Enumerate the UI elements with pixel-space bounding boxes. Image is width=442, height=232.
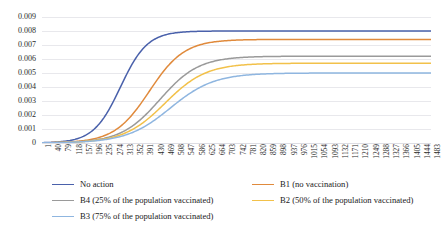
y-axis-tick-label: 0.001 <box>18 125 36 133</box>
y-axis-tick-label: 0.005 <box>18 69 36 77</box>
series-line <box>42 31 431 143</box>
x-axis-tick-label: 1483 <box>434 144 441 159</box>
x-axis-tick-label: 1327 <box>393 144 400 159</box>
x-axis-tick-label: 1132 <box>342 144 349 159</box>
y-axis: 0.0090.0080.0070.0060.0050.0040.0030.002… <box>0 17 40 143</box>
plot-area <box>42 17 431 143</box>
x-axis-tick-label: 469 <box>168 144 175 155</box>
x-axis-tick-label: 664 <box>219 144 226 155</box>
legend-item[interactable]: B4 (25% of the population vaccinated) <box>52 196 213 205</box>
x-axis-tick-label: 1210 <box>362 144 369 159</box>
x-axis-tick-label: 1366 <box>403 144 410 159</box>
x-axis-tick-label: 1288 <box>383 144 390 159</box>
x-axis-tick-label: 976 <box>301 144 308 155</box>
y-axis-tick-label: 0.004 <box>18 83 36 91</box>
x-axis-tick-label: 430 <box>158 144 165 155</box>
legend-label: B3 (75% of the population vaccinated) <box>80 212 213 221</box>
x-axis-tick-label: 586 <box>199 144 206 155</box>
y-axis-tick-label: 0 <box>32 139 36 147</box>
x-axis-tick-label: 703 <box>229 144 236 155</box>
legend-item[interactable]: No action <box>52 180 114 189</box>
series-line <box>42 73 431 143</box>
x-axis: 1407911815719623527431335239143046950854… <box>42 144 431 178</box>
x-axis-tick-label: 1054 <box>321 144 328 159</box>
x-axis-tick-label: 313 <box>127 144 134 155</box>
legend-color-swatch <box>52 216 74 217</box>
series-lines <box>42 17 431 143</box>
y-axis-tick-label: 0.007 <box>18 41 36 49</box>
series-line <box>42 39 431 142</box>
legend-label: No action <box>80 180 114 189</box>
series-line <box>42 63 431 143</box>
x-axis-tick-label: 274 <box>117 144 124 155</box>
legend-item[interactable]: B3 (75% of the population vaccinated) <box>52 212 213 221</box>
x-axis-tick-label: 1171 <box>352 144 359 159</box>
x-axis-tick-label: 391 <box>147 144 154 155</box>
x-axis-tick-label: 742 <box>240 144 247 155</box>
x-axis-tick-label: 898 <box>280 144 287 155</box>
x-axis-tick-label: 859 <box>270 144 277 155</box>
legend-item[interactable]: B2 (50% of the population vaccinated) <box>252 196 413 205</box>
x-axis-tick-label: 781 <box>250 144 257 155</box>
x-axis-tick-label: 937 <box>291 144 298 155</box>
x-axis-tick-label: 352 <box>137 144 144 155</box>
x-axis-tick-label: 1444 <box>424 144 431 159</box>
x-axis-tick-label: 547 <box>188 144 195 155</box>
x-axis-tick-label: 1015 <box>311 144 318 159</box>
x-axis-tick-label: 625 <box>209 144 216 155</box>
x-axis-tick-label: 196 <box>96 144 103 155</box>
series-line <box>42 56 431 143</box>
legend-label: B1 (no vaccination) <box>280 180 348 189</box>
chart-legend: No actionB1 (no vaccination)B4 (25% of t… <box>0 180 435 230</box>
legend-label: B2 (50% of the population vaccinated) <box>280 196 413 205</box>
y-axis-tick-label: 0.006 <box>18 55 36 63</box>
x-axis-tick-label: 118 <box>76 144 83 155</box>
x-axis-tick-label: 1 <box>45 144 52 148</box>
x-axis-tick-label: 157 <box>86 144 93 155</box>
x-axis-tick-label: 820 <box>260 144 267 155</box>
legend-color-swatch <box>252 200 274 201</box>
legend-item[interactable]: B1 (no vaccination) <box>252 180 348 189</box>
y-axis-tick-label: 0.008 <box>18 27 36 35</box>
legend-label: B4 (25% of the population vaccinated) <box>80 196 213 205</box>
x-axis-tick-label: 1093 <box>332 144 339 159</box>
legend-color-swatch <box>252 184 274 185</box>
y-axis-tick-label: 0.002 <box>18 111 36 119</box>
chart-title-clipped <box>0 0 435 8</box>
x-axis-tick-label: 1405 <box>414 144 421 159</box>
y-axis-tick-label: 0.009 <box>18 13 36 21</box>
x-axis-tick-label: 1249 <box>373 144 380 159</box>
y-axis-tick-label: 0.003 <box>18 97 36 105</box>
legend-color-swatch <box>52 200 74 201</box>
x-axis-tick-label: 40 <box>55 144 62 151</box>
x-axis-tick-label: 235 <box>106 144 113 155</box>
x-axis-tick-label: 79 <box>65 144 72 151</box>
x-axis-tick-label: 508 <box>178 144 185 155</box>
legend-color-swatch <box>52 184 74 185</box>
